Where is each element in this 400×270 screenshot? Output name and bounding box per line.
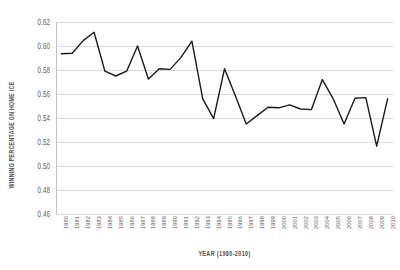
x-tick-label: 2001 bbox=[292, 216, 298, 229]
x-tick-label: 1998 bbox=[259, 216, 265, 229]
y-tick-label: 0.56 bbox=[26, 89, 50, 98]
y-tick-label: 0.48 bbox=[26, 185, 50, 194]
x-tick-label: 1983 bbox=[96, 216, 102, 229]
x-tick-label: 1985 bbox=[118, 216, 124, 229]
y-axis-title: WINNING PERCENTAGE ON HOME ICE bbox=[0, 0, 22, 270]
x-tick-label: 1999 bbox=[270, 216, 276, 229]
x-tick-label: 2004 bbox=[324, 216, 330, 229]
x-tick-label: 1987 bbox=[140, 216, 146, 229]
x-tick-label: 1992 bbox=[194, 216, 200, 229]
y-tick-label: 0.58 bbox=[26, 65, 50, 74]
x-tick-label: 1995 bbox=[227, 216, 233, 229]
y-tick-label: 0.60 bbox=[26, 41, 50, 50]
x-tick-label: 1997 bbox=[248, 216, 254, 229]
x-tick-label: 2010 bbox=[390, 216, 396, 229]
x-tick-label: 1994 bbox=[216, 216, 222, 229]
x-tick-label: 2009 bbox=[379, 216, 385, 229]
y-axis-tick-labels: 0.620.600.580.560.540.520.500.480.46 bbox=[22, 0, 50, 270]
y-tick-label: 0.52 bbox=[26, 137, 50, 146]
x-tick-label: 1990 bbox=[172, 216, 178, 229]
x-tick-label: 1988 bbox=[150, 216, 156, 229]
x-tick-label: 1982 bbox=[85, 216, 91, 229]
data-line bbox=[61, 32, 387, 146]
x-tick-label: 1989 bbox=[161, 216, 167, 229]
x-tick-label: 1986 bbox=[129, 216, 135, 229]
x-axis-title-label: YEAR (1980-2010) bbox=[198, 249, 250, 257]
x-tick-label: 1981 bbox=[74, 216, 80, 229]
x-tick-label: 2006 bbox=[346, 216, 352, 229]
y-axis-title-label: WINNING PERCENTAGE ON HOME ICE bbox=[7, 82, 16, 189]
x-tick-label: 2000 bbox=[281, 216, 287, 229]
y-tick-label: 0.46 bbox=[26, 209, 50, 218]
gridline bbox=[56, 214, 393, 215]
x-axis-title: YEAR (1980-2010) bbox=[56, 250, 393, 256]
x-tick-label: 2003 bbox=[313, 216, 319, 229]
x-tick-label: 1980 bbox=[63, 216, 69, 229]
data-series-svg bbox=[56, 22, 393, 214]
x-tick-label: 2005 bbox=[335, 216, 341, 229]
x-tick-label: 1984 bbox=[107, 216, 113, 229]
x-tick-label: 2002 bbox=[303, 216, 309, 229]
plot-area bbox=[56, 22, 393, 214]
x-tick-label: 1996 bbox=[237, 216, 243, 229]
x-tick-label: 2008 bbox=[368, 216, 374, 229]
y-tick-label: 0.62 bbox=[26, 17, 50, 26]
x-tick-label: 1991 bbox=[183, 216, 189, 229]
y-tick-label: 0.50 bbox=[26, 161, 50, 170]
x-tick-label: 1993 bbox=[205, 216, 211, 229]
x-tick-label: 2007 bbox=[357, 216, 363, 229]
y-tick-label: 0.54 bbox=[26, 113, 50, 122]
line-chart: WINNING PERCENTAGE ON HOME ICE 0.620.600… bbox=[0, 0, 400, 270]
x-axis-tick-labels: 1980198119821983198419851986198719881989… bbox=[56, 216, 393, 248]
